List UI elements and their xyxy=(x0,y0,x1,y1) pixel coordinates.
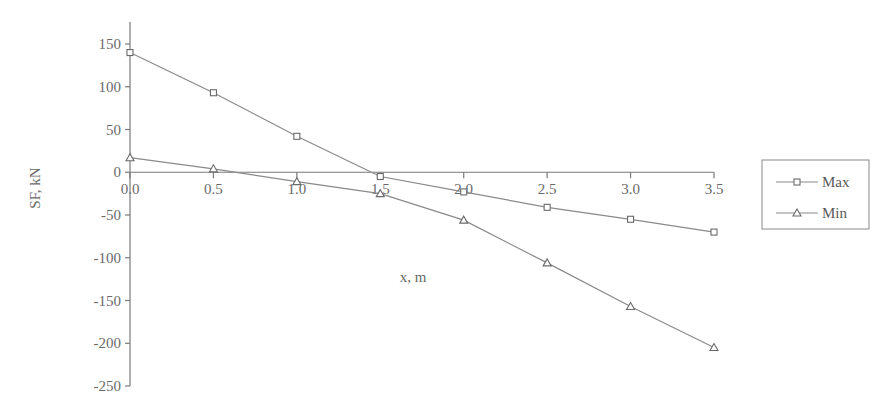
data-point-min xyxy=(543,259,551,266)
x-axis-title: x, m xyxy=(400,269,427,285)
axes: 150100500-50-100-150-200-2500.00.51.01.5… xyxy=(94,22,724,394)
data-point-min xyxy=(710,344,718,351)
data-point-max xyxy=(711,229,717,235)
series-layer xyxy=(126,50,718,351)
series-line-max xyxy=(130,53,714,233)
data-point-max xyxy=(628,216,634,222)
data-point-max xyxy=(127,50,133,56)
y-tick-label: -50 xyxy=(101,207,121,223)
y-tick-label: -100 xyxy=(94,250,122,266)
y-tick-label: 0 xyxy=(114,164,122,180)
y-tick-label: -250 xyxy=(94,378,122,394)
legend: MaxMin xyxy=(762,160,869,229)
x-tick-label: 2.5 xyxy=(538,181,557,197)
legend-label-max: Max xyxy=(822,174,850,190)
x-tick-label: 3.0 xyxy=(621,181,640,197)
x-tick-label: 0.5 xyxy=(204,181,223,197)
shear-force-chart: 150100500-50-100-150-200-2500.00.51.01.5… xyxy=(0,0,896,410)
x-tick-label: 0.0 xyxy=(121,181,140,197)
data-point-min xyxy=(627,302,635,309)
y-tick-label: 100 xyxy=(99,79,122,95)
y-tick-label: 150 xyxy=(99,36,122,52)
data-point-max xyxy=(544,204,550,210)
legend-box xyxy=(762,160,869,229)
x-tick-label: 3.5 xyxy=(705,181,724,197)
legend-label-min: Min xyxy=(822,205,848,221)
legend-marker-max xyxy=(794,179,800,185)
y-tick-label: -200 xyxy=(94,335,122,351)
data-point-max xyxy=(461,189,467,195)
data-point-max xyxy=(294,133,300,139)
data-point-max xyxy=(377,174,383,180)
data-point-max xyxy=(210,90,216,96)
y-tick-label: -150 xyxy=(94,293,122,309)
y-axis-title: SF, kN xyxy=(27,167,43,208)
y-tick-label: 50 xyxy=(106,122,121,138)
data-point-min xyxy=(126,154,134,161)
